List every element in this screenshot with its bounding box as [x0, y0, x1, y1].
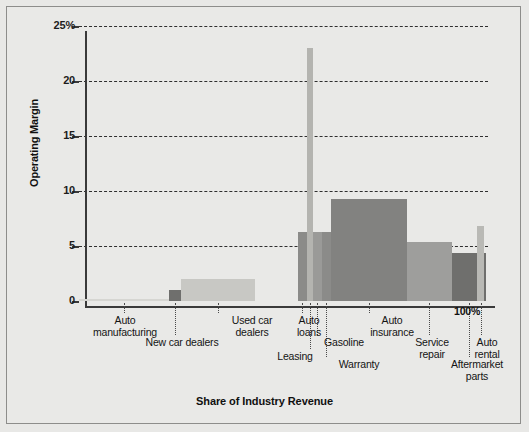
- chart-frame: 25%20151050 Auto manufacturingNew car de…: [6, 6, 521, 424]
- category-label-aftermarket-parts: Aftermarket parts: [435, 359, 519, 382]
- leader-line-new-car-dealers: [175, 303, 176, 335]
- bar-auto-manufacturing: [79, 299, 169, 301]
- y-tick-label-25: 25%: [54, 19, 75, 31]
- category-label-auto-loans: Auto loans: [289, 315, 329, 338]
- category-label-auto-manufacturing: Auto manufacturing: [82, 315, 168, 338]
- category-label-auto-insurance: Auto insurance: [356, 315, 428, 338]
- gridline-25: [79, 26, 488, 27]
- x-axis-line: [85, 306, 495, 308]
- category-label-new-car-dealers: New car dealers: [130, 337, 234, 349]
- y-tick-label-0: 0: [69, 294, 75, 306]
- bar-auto-loans: [298, 232, 307, 301]
- category-label-gasoline: Gasoline: [315, 337, 373, 349]
- y-tick-label-10: 10: [63, 184, 75, 196]
- y-tick-label-5: 5: [69, 239, 75, 251]
- leader-line-service-repair: [429, 303, 430, 335]
- bar-service-repair: [407, 242, 452, 301]
- bar-used-car-dealers: [181, 279, 255, 301]
- category-label-used-car-dealers: Used car dealers: [221, 315, 283, 338]
- leader-line-used-car-dealers: [218, 303, 219, 313]
- x-axis-title: Share of Industry Revenue: [0, 395, 529, 407]
- gridline-10: [79, 191, 488, 192]
- y-tick-label-20: 20: [63, 74, 75, 86]
- bar-warranty: [322, 232, 331, 301]
- bar-new-car-dealers: [169, 290, 181, 301]
- leader-line-auto-loans: [302, 303, 303, 313]
- y-tick-label-15: 15: [63, 129, 75, 141]
- leader-line-auto-manufacturing: [124, 303, 125, 313]
- gridline-15: [79, 136, 488, 137]
- category-label-service-repair: Service repair: [404, 337, 460, 360]
- category-label-auto-rental: Auto rental: [461, 337, 513, 360]
- x-axis-end-label: 100%: [454, 305, 480, 317]
- y-axis-line: [85, 31, 87, 308]
- y-axis-title: Operating Margin: [28, 68, 40, 218]
- category-label-leasing: Leasing: [271, 351, 319, 363]
- bar-gasoline: [313, 232, 322, 301]
- leader-line-auto-rental: [481, 303, 482, 335]
- category-label-warranty: Warranty: [328, 359, 390, 371]
- gridline-20: [79, 81, 488, 82]
- bar-auto-insurance: [331, 199, 407, 301]
- bar-auto-rental: [477, 226, 484, 301]
- leader-line-auto-insurance: [369, 303, 370, 313]
